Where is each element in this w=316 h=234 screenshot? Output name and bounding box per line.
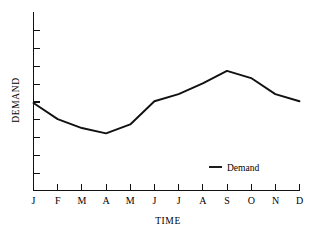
x-tick-label: M	[77, 195, 86, 206]
chart-canvas: J F M A M J J A S O N D TIME DEMAND Dema…	[0, 0, 316, 234]
x-tick-label: M	[126, 195, 135, 206]
x-tick-label: A	[199, 195, 207, 206]
y-axis-ticks	[34, 31, 40, 173]
x-tick-label: J	[32, 195, 36, 206]
x-tick-label: S	[224, 195, 230, 206]
x-tick-label: J	[153, 195, 157, 206]
demand-series-line	[34, 71, 300, 133]
x-tick-label: N	[272, 195, 279, 206]
x-axis-ticks	[34, 184, 300, 191]
y-axis-title: DEMAND	[11, 77, 21, 122]
x-tick-label: D	[296, 195, 303, 206]
chart-legend: Demand	[209, 163, 259, 173]
x-tick-label: O	[248, 195, 255, 206]
x-axis-title: TIME	[155, 216, 181, 226]
x-tick-label: J	[177, 195, 181, 206]
legend-entry-label: Demand	[227, 163, 259, 173]
x-tick-label: F	[55, 195, 61, 206]
x-tick-label: A	[102, 195, 110, 206]
x-tick-labels: J F M A M J J A S O N D	[32, 195, 304, 206]
demand-time-line-chart: J F M A M J J A S O N D TIME DEMAND Dema…	[0, 0, 316, 234]
